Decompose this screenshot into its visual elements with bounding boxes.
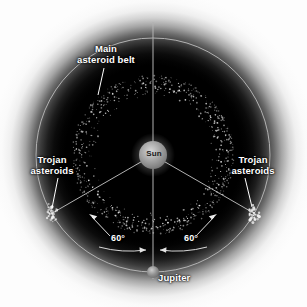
label-main-asteroid-belt: Main asteroid belt [63, 44, 149, 65]
leader-line-trojan-left [52, 178, 58, 208]
label-main-asteroid-belt-line2: asteroid belt [77, 54, 135, 65]
trojan-swarm-right [248, 204, 261, 224]
label-trojan-left-line1: Trojan [37, 154, 66, 165]
label-sun: Sun [139, 149, 169, 158]
label-angle-right: 60° [178, 233, 204, 244]
label-main-asteroid-belt-line1: Main [95, 43, 117, 54]
asteroid-belt-diagram: Main asteroid belt Trojan asteroids Troj… [0, 0, 307, 307]
label-jupiter: Jupiter [158, 273, 210, 284]
angle-arc-right [160, 247, 207, 251]
leader-line-main-belt [98, 68, 104, 95]
label-trojan-right-line1: Trojan [238, 154, 267, 165]
angle-arrowhead-right [160, 247, 167, 252]
label-trojan-left-line2: asteroids [30, 165, 73, 176]
label-trojan-right-line2: asteroids [231, 165, 274, 176]
label-trojan-asteroids-right: Trojan asteroids [214, 155, 292, 176]
angle-arrowhead-left [140, 247, 147, 252]
label-angle-left: 60° [105, 233, 131, 244]
leader-line-trojan-right [245, 178, 252, 207]
label-trojan-asteroids-left: Trojan asteroids [14, 155, 90, 176]
angle-arc-left [99, 247, 146, 251]
